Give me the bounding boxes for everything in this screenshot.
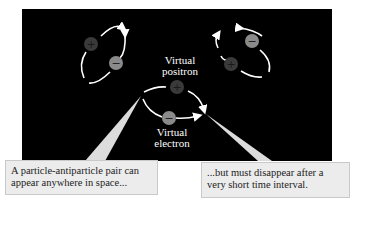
- callout-text: A particle-antiparticle pair can: [11, 165, 152, 177]
- svg-text:+: +: [86, 38, 95, 51]
- svg-text:−: −: [164, 112, 173, 125]
- virtual-positron-label: Virtual positron: [150, 55, 210, 77]
- virtual-electron-label: Virtual electron: [142, 127, 202, 149]
- label-line: electron: [142, 138, 202, 149]
- callout-text: appear anywhere in space...: [11, 177, 152, 189]
- callout-text: ...but must disappear after a: [207, 167, 344, 179]
- callout-appear: A particle-antiparticle pair can appear …: [5, 160, 158, 195]
- callout-disappear: ...but must disappear after a very short…: [201, 162, 350, 198]
- pair-loop-center: + −: [143, 80, 204, 125]
- pair-loop-upper-left: + −: [81, 26, 125, 83]
- label-line: positron: [150, 66, 210, 77]
- callout-pointer-left: [85, 96, 141, 161]
- callout-pointer-right: [206, 114, 272, 161]
- svg-text:+: +: [172, 81, 181, 94]
- svg-text:+: +: [226, 58, 235, 71]
- svg-text:−: −: [111, 57, 120, 70]
- callout-text: very short time interval.: [207, 179, 344, 191]
- svg-text:−: −: [247, 35, 256, 48]
- pair-loop-upper-right: − +: [216, 28, 270, 77]
